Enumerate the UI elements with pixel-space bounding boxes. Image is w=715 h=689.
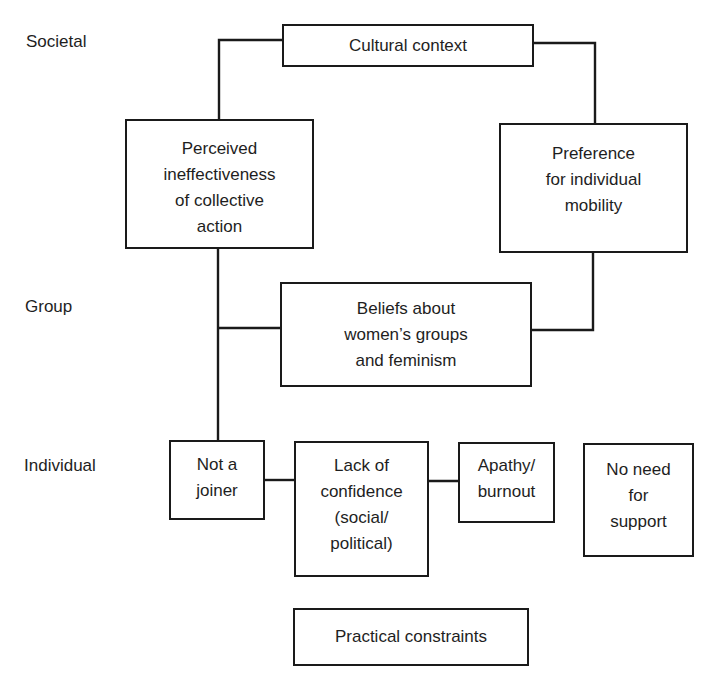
node-preference-individual-mobility: Preference for individual mobility xyxy=(499,123,688,253)
edge-cultural-to-preference xyxy=(533,43,595,124)
node-perceived-ineffectiveness: Perceived ineffectiveness of collective … xyxy=(125,119,314,249)
node-cultural-context: Cultural context xyxy=(282,24,534,67)
node-label: Lack of confidence (social/ political) xyxy=(320,453,402,557)
node-label: Perceived ineffectiveness of collective … xyxy=(163,136,275,240)
node-label: Apathy/ burnout xyxy=(478,453,536,505)
node-label: Practical constraints xyxy=(335,624,487,650)
edge-preference-to-beliefs xyxy=(531,251,593,330)
node-lack-of-confidence: Lack of confidence (social/ political) xyxy=(294,441,429,577)
node-apathy-burnout: Apathy/ burnout xyxy=(458,442,555,523)
node-not-a-joiner: Not a joiner xyxy=(169,440,265,520)
node-practical-constraints: Practical constraints xyxy=(293,608,529,666)
node-label: Preference for individual mobility xyxy=(546,141,641,219)
node-label: Beliefs about women’s groups and feminis… xyxy=(344,296,467,374)
node-label: No need for support xyxy=(606,457,670,535)
node-beliefs-womens-groups: Beliefs about women’s groups and feminis… xyxy=(280,282,532,387)
edge-cultural-to-perceived xyxy=(219,40,283,120)
node-label: Cultural context xyxy=(349,33,467,59)
node-label: Not a joiner xyxy=(196,452,238,504)
node-no-need-for-support: No need for support xyxy=(583,443,694,557)
